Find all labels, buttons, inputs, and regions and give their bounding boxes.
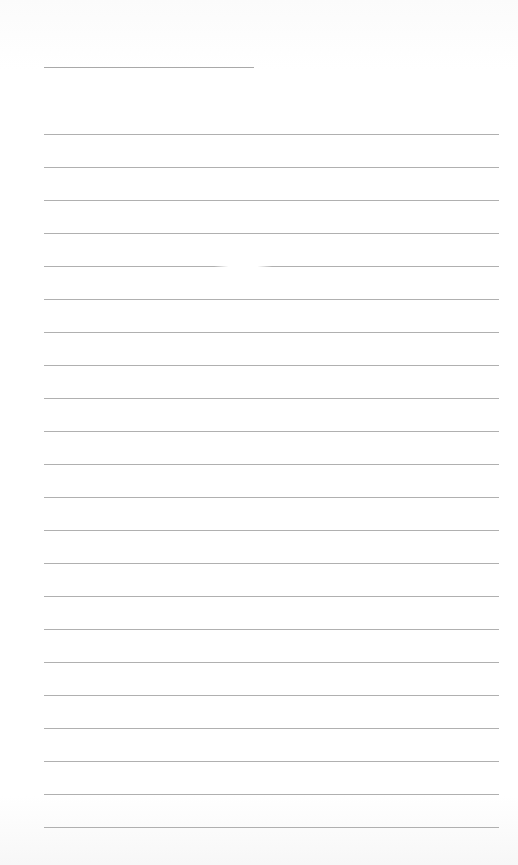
header-blank-line [44, 67, 254, 68]
ruled-line [44, 596, 499, 597]
ruled-line [44, 794, 499, 795]
ruled-line [44, 233, 499, 234]
ruled-line [44, 629, 499, 630]
ruled-line [44, 464, 499, 465]
ruled-line [44, 299, 499, 300]
ruled-line [44, 662, 499, 663]
ruled-line [44, 695, 499, 696]
ruled-line [44, 167, 499, 168]
glare-gap [214, 265, 272, 268]
ruled-line [44, 398, 499, 399]
ruled-line [44, 827, 499, 828]
ruled-line [44, 200, 499, 201]
ruled-line [44, 728, 499, 729]
ruled-line [44, 431, 499, 432]
ruled-line [44, 761, 499, 762]
lined-paper-page [0, 0, 518, 865]
ruled-line [44, 365, 499, 366]
ruled-line [44, 332, 499, 333]
ruled-line [44, 134, 499, 135]
ruled-line [44, 563, 499, 564]
ruled-line [44, 497, 499, 498]
ruled-line [44, 530, 499, 531]
